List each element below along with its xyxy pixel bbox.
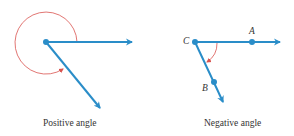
negative-angle-caption: Negative angle bbox=[204, 118, 261, 128]
positive-angle-diagram bbox=[15, 12, 132, 108]
terminal-side-ray bbox=[46, 42, 100, 108]
label-b: B bbox=[202, 83, 208, 93]
point-a bbox=[249, 39, 255, 45]
vertex-point bbox=[43, 39, 49, 45]
positive-angle-caption: Positive angle bbox=[43, 118, 97, 128]
angle-diagrams bbox=[0, 0, 294, 136]
point-c bbox=[192, 39, 198, 45]
label-a: A bbox=[249, 26, 255, 36]
point-b bbox=[211, 79, 217, 85]
negative-angle-arc bbox=[207, 43, 217, 62]
label-c: C bbox=[183, 36, 189, 46]
ray-cb bbox=[195, 42, 223, 102]
